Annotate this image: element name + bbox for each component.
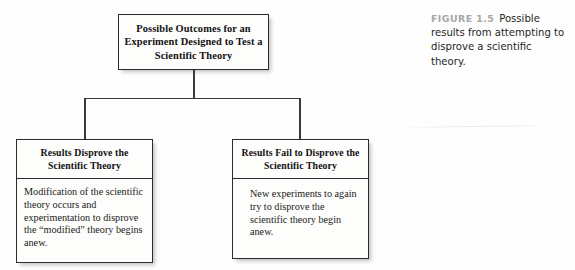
branch-body-right: New experiments to again try to disprove… (233, 179, 368, 239)
scan-artifact-line (398, 125, 548, 128)
root-node-box: Possible Outcomes for an Experiment Desi… (118, 14, 269, 70)
figure-page: Possible Outcomes for an Experiment Desi… (0, 0, 575, 270)
branch-heading-left: Results Disprove the Scientific Theory (17, 140, 152, 179)
root-node-title: Possible Outcomes for an Experiment Desi… (119, 22, 268, 63)
branch-node-box-right: Results Fail to Disprove the Scientific … (232, 139, 369, 259)
branch-body-text-right: New experiments to again try to disprove… (250, 188, 362, 239)
figure-caption: FIGURE 1.5Possible results from attempti… (431, 12, 567, 69)
branch-node-box-left: Results Disprove the Scientific Theory M… (16, 139, 153, 263)
connector-drop-left (84, 98, 86, 139)
connector-stem-vertical (193, 70, 195, 99)
branch-heading-right: Results Fail to Disprove the Scientific … (233, 140, 368, 179)
branch-body-text-left: Modification of the scientific theory oc… (24, 186, 146, 250)
figure-caption-label: FIGURE 1.5 (431, 13, 494, 24)
connector-horizontal-bar (84, 98, 301, 100)
connector-drop-right (299, 98, 301, 139)
branch-body-left: Modification of the scientific theory oc… (17, 179, 152, 250)
